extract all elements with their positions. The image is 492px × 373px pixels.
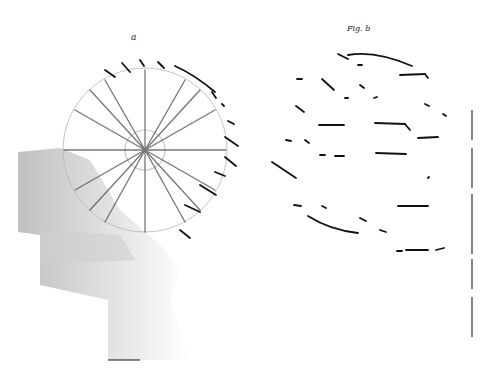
left-panel: a xyxy=(0,0,260,373)
right-panel: Fig. b xyxy=(260,0,492,373)
right-panel-image xyxy=(260,0,492,373)
left-panel-image xyxy=(0,0,260,373)
